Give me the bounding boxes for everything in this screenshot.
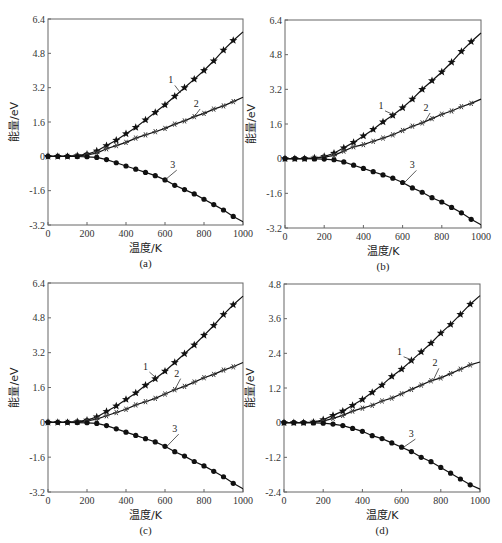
circle-marker (439, 199, 444, 204)
asterisk-marker (379, 398, 385, 403)
y-tick-label: 1.6 (33, 382, 46, 393)
x-tick-label: 800 (434, 231, 449, 242)
panel-caption: (a) (139, 257, 152, 270)
asterisk-marker (399, 391, 405, 396)
series-line-1 (284, 296, 480, 423)
asterisk-marker (370, 139, 376, 144)
panel-caption: (d) (376, 524, 389, 537)
plot-frame (48, 283, 243, 492)
series-line-3 (285, 159, 481, 225)
asterisk-marker (400, 128, 406, 133)
star-marker (112, 402, 120, 410)
circle-marker (400, 180, 405, 185)
y-tick-label: 4.8 (270, 49, 283, 60)
x-tick-label: 400 (355, 495, 370, 506)
circle-marker (380, 172, 385, 177)
asterisk-marker (182, 384, 188, 389)
circle-marker (94, 421, 99, 426)
circle-marker (438, 465, 443, 470)
figure-canvas: -3.2-1.601.63.24.86.402004006008001000温度… (0, 0, 502, 543)
asterisk-marker (449, 108, 455, 113)
circle-marker (351, 163, 356, 168)
circle-marker (302, 156, 307, 161)
chart-panel-b: -3.2-1.601.63.24.86.402004006008001000温度… (244, 15, 491, 274)
circle-marker (182, 453, 187, 458)
asterisk-marker (369, 403, 375, 408)
annotation-leader (175, 85, 181, 93)
circle-marker (75, 420, 80, 425)
circle-marker (133, 167, 138, 172)
plot-frame (285, 20, 481, 228)
y-axis-label: 能量/eV (244, 104, 258, 144)
asterisk-marker (123, 407, 129, 412)
asterisk-marker (113, 410, 119, 415)
asterisk-marker (467, 362, 473, 367)
circle-marker (370, 433, 375, 438)
asterisk-marker (123, 140, 129, 145)
circle-marker (172, 183, 177, 188)
circle-marker (182, 187, 187, 192)
asterisk-marker (438, 375, 444, 380)
asterisk-marker (182, 118, 188, 123)
series-line-3 (284, 423, 480, 489)
y-tick-label: -3.2 (266, 223, 282, 234)
x-axis-label: 温度/K (129, 241, 163, 255)
y-tick-label: -2.4 (265, 487, 281, 498)
circle-marker (75, 154, 80, 159)
curve-number-label: 1 (397, 346, 402, 357)
x-tick-label: 200 (317, 231, 332, 242)
x-tick-label: 400 (356, 231, 371, 242)
x-tick-label: 600 (158, 495, 173, 506)
circle-marker (390, 176, 395, 181)
circle-marker (311, 420, 316, 425)
asterisk-marker (221, 103, 227, 108)
curve-number-label: 2 (432, 357, 437, 368)
circle-marker (409, 449, 414, 454)
asterisk-marker (350, 409, 356, 414)
x-tick-label: 0 (46, 228, 51, 239)
curve-number-label: 1 (168, 74, 173, 85)
chart-panel-d: -2.4-1.201.22.43.64.802004006008001000温度… (243, 279, 490, 538)
asterisk-marker (359, 406, 365, 411)
asterisk-marker (211, 372, 217, 377)
circle-marker (221, 474, 226, 479)
y-tick-label: 3.6 (269, 313, 282, 324)
asterisk-marker (152, 396, 158, 401)
circle-marker (114, 160, 119, 165)
y-tick-label: -1.6 (266, 188, 282, 199)
circle-marker (379, 436, 384, 441)
annotation-leader (167, 434, 179, 446)
circle-marker (281, 420, 286, 425)
y-tick-label: 2.4 (269, 348, 282, 359)
circle-marker (104, 157, 109, 162)
asterisk-marker (201, 111, 207, 116)
circle-marker (94, 155, 99, 160)
x-tick-label: 800 (197, 495, 212, 506)
annotation-leader (165, 170, 177, 180)
asterisk-marker (409, 124, 415, 129)
asterisk-marker (360, 142, 366, 147)
circle-marker (123, 430, 128, 435)
curve-number-label: 3 (170, 159, 175, 170)
asterisk-marker (439, 112, 445, 117)
circle-marker (201, 197, 206, 202)
asterisk-marker (389, 396, 395, 401)
circle-marker (143, 170, 148, 175)
x-tick-label: 600 (395, 231, 410, 242)
series-line-3 (48, 422, 243, 488)
circle-marker (371, 169, 376, 174)
asterisk-marker (162, 126, 168, 131)
panel-caption: (b) (377, 260, 390, 273)
star-marker (339, 407, 347, 415)
circle-marker (221, 207, 226, 212)
circle-marker (45, 154, 50, 159)
circle-marker (341, 159, 346, 164)
x-tick-label: 200 (80, 495, 95, 506)
asterisk-marker (457, 367, 463, 372)
circle-marker (84, 420, 89, 425)
x-tick-label: 400 (119, 495, 134, 506)
y-tick-label: 1.6 (270, 119, 283, 130)
curve-number-label: 3 (172, 423, 177, 434)
y-tick-label: 1.2 (269, 383, 282, 394)
x-axis-label: 温度/K (367, 244, 401, 258)
